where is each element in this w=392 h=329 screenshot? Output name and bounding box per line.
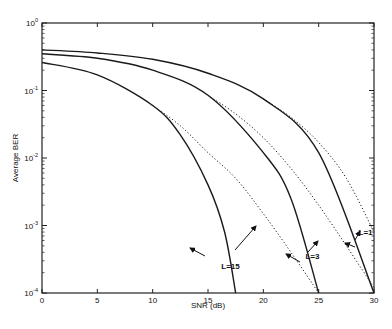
curve-l-1-exact <box>42 50 374 293</box>
ber-chart: 05101520253010010-110-210-310-4 L=15L=3L… <box>0 0 392 329</box>
y-tick-label: 100 <box>26 17 38 28</box>
curve-l-3-exact <box>42 54 319 293</box>
annotation-arrow <box>345 243 355 247</box>
curve-l-1-approx <box>263 99 374 232</box>
annotation-arrow <box>190 248 205 256</box>
annotation-arrow <box>235 226 256 250</box>
x-tick-label: 25 <box>314 296 323 305</box>
tick-labels: 05101520253010010-110-210-310-4 <box>24 17 379 305</box>
y-tick-label: 10-4 <box>24 287 38 298</box>
y-tick-label: 10-2 <box>24 152 38 163</box>
x-tick-label: 30 <box>370 296 379 305</box>
x-tick-label: 20 <box>259 296 268 305</box>
annotation-arrow <box>308 241 318 252</box>
annotations: L=15L=3L=1 <box>190 226 373 271</box>
x-tick-label: 5 <box>95 296 100 305</box>
curve-label-l1: L=1 <box>359 228 374 237</box>
x-tick-label: 10 <box>148 296 157 305</box>
curve-label-l3: L=3 <box>305 252 320 261</box>
y-tick-label: 10-1 <box>24 85 38 96</box>
annotation-arrow <box>286 254 300 262</box>
plot-frame <box>42 23 374 293</box>
curve-l-3-approx <box>208 95 374 287</box>
curves <box>42 50 374 293</box>
curve-label-l15: L=15 <box>221 262 240 271</box>
x-tick-label: 0 <box>40 296 45 305</box>
y-tick-label: 10-3 <box>24 220 38 231</box>
curve-l-15-exact <box>42 62 236 293</box>
y-axis-label: Average BER <box>11 134 20 183</box>
plot-border <box>42 23 374 293</box>
x-axis-label: SNR (dB) <box>191 301 226 310</box>
axis-ticks <box>42 23 374 293</box>
